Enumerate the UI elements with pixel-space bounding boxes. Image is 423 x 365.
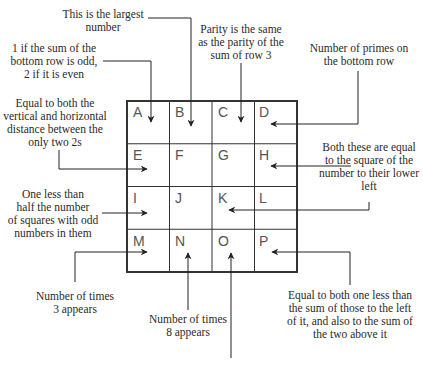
- clue-h-l: Both these are equal to the square of th…: [318, 141, 420, 193]
- arrow-p: [272, 252, 350, 285]
- grid: [127, 101, 297, 272]
- cell-k[interactable]: K: [218, 190, 227, 206]
- cell-i[interactable]: I: [133, 190, 137, 206]
- cell-p[interactable]: P: [259, 233, 268, 249]
- arrow-l: [229, 202, 369, 210]
- cell-j[interactable]: J: [175, 190, 182, 206]
- cell-e[interactable]: E: [133, 147, 142, 163]
- clue-m: Number of times 3 appears: [30, 290, 120, 316]
- clue-d: Number of primes on the bottom row: [307, 42, 411, 68]
- clue-a: 1 if the sum of the bottom row is odd, 2…: [6, 42, 102, 81]
- cell-f[interactable]: F: [175, 147, 184, 163]
- cell-d[interactable]: D: [259, 104, 269, 120]
- cell-h[interactable]: H: [259, 147, 269, 163]
- cell-l[interactable]: L: [259, 190, 267, 206]
- cell-b[interactable]: B: [175, 104, 184, 120]
- cell-m[interactable]: M: [133, 233, 145, 249]
- clue-n: Number of times 8 appears: [143, 313, 233, 339]
- cell-a[interactable]: A: [133, 104, 142, 120]
- cell-o[interactable]: O: [218, 233, 229, 249]
- cell-c[interactable]: C: [218, 104, 228, 120]
- cell-g[interactable]: G: [218, 147, 229, 163]
- clue-e: Equal to both the vertical and horizonta…: [0, 97, 110, 149]
- cell-n[interactable]: N: [175, 233, 185, 249]
- arrow-m: [75, 252, 147, 282]
- clue-c: Parity is the same as the parity of the …: [196, 23, 286, 62]
- clue-b: This is the largest number: [58, 8, 148, 34]
- clue-i: One less than half the number of squares…: [4, 188, 102, 240]
- clue-p: Equal to both one less than the sum of t…: [278, 289, 422, 341]
- arrow-d: [271, 71, 358, 124]
